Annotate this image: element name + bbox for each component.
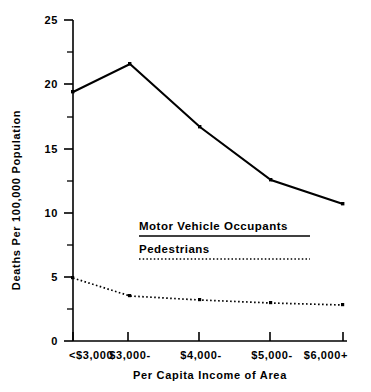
- series-motor-vehicle-occupants: [73, 64, 343, 204]
- data-point-ped-2: [198, 298, 201, 301]
- y-tick-label-15: 15: [45, 143, 58, 155]
- data-point-mv-1: [128, 62, 131, 65]
- x-tick-label-4: $6,000+: [304, 349, 348, 361]
- legend-item-pedestrians: Pedestrians: [139, 243, 310, 259]
- y-tick-label-25: 25: [45, 14, 58, 26]
- data-point-mv-4: [341, 202, 344, 205]
- data-point-ped-0: [71, 276, 74, 279]
- x-tick-label-1: $3,000-: [109, 349, 151, 361]
- line-chart: 25 20 15 10 5 0 <$3,000 $3,000- $4,000- …: [0, 0, 371, 392]
- x-tick-label-0: <$3,000: [69, 349, 113, 361]
- legend-item-motor-vehicle-occupants: Motor Vehicle Occupants: [139, 220, 310, 236]
- legend: Motor Vehicle Occupants Pedestrians: [139, 220, 310, 259]
- x-tick-label-3: $5,000-: [251, 349, 293, 361]
- data-point-ped-1: [128, 294, 131, 297]
- legend-label-pedestrians: Pedestrians: [139, 243, 210, 255]
- y-tick-label-10: 10: [45, 207, 58, 219]
- y-axis-title: Deaths Per 100,000 Population: [10, 110, 22, 290]
- data-point-ped-3: [269, 301, 272, 304]
- data-point-mv-2: [198, 125, 201, 128]
- y-tick-label-5: 5: [51, 271, 58, 283]
- y-tick-label-20: 20: [45, 78, 58, 90]
- data-point-mv-3: [269, 178, 272, 181]
- chart-container: 25 20 15 10 5 0 <$3,000 $3,000- $4,000- …: [0, 0, 371, 392]
- x-tick-label-2: $4,000-: [180, 349, 222, 361]
- y-tick-label-0: 0: [51, 335, 58, 347]
- legend-label-motor-vehicle-occupants: Motor Vehicle Occupants: [139, 220, 288, 232]
- data-point-ped-4: [341, 303, 344, 306]
- x-axis-title: Per Capita Income of Area: [133, 369, 287, 381]
- data-point-mv-0: [71, 90, 74, 93]
- series-pedestrians: [73, 278, 343, 305]
